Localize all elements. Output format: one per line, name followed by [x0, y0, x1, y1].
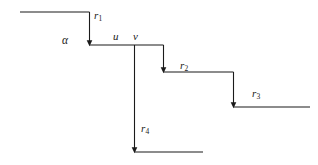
- staircase-diagram: [0, 0, 318, 165]
- vertex-label-u: u: [113, 31, 119, 42]
- diagram-strokes: [20, 12, 310, 152]
- edge-label-r4: r4: [141, 123, 149, 136]
- edge-label-r1-subscript: 1: [99, 14, 103, 23]
- edge-label-r1: r1: [94, 10, 102, 23]
- edge-label-r4-subscript: 4: [146, 127, 150, 136]
- vertex-label-alpha: α: [62, 35, 68, 47]
- edge-label-r3-text: r: [252, 87, 256, 99]
- edge-label-r4-text: r: [141, 122, 145, 134]
- edge-label-r2-subscript: 2: [185, 64, 189, 73]
- edge-label-r2-text: r: [180, 59, 184, 71]
- edge-label-r1-text: r: [94, 9, 98, 21]
- edge-label-r2: r2: [180, 60, 188, 73]
- vertex-label-u-text: u: [113, 30, 119, 42]
- vertex-label-alpha-text: α: [62, 34, 68, 46]
- vertex-label-v: v: [133, 31, 138, 42]
- vertex-label-v-text: v: [133, 30, 138, 42]
- diagram-arrowheads: [87, 40, 237, 153]
- edge-label-r3: r3: [252, 88, 260, 101]
- edge-label-r3-subscript: 3: [257, 92, 261, 101]
- figure-root: r1 α u v r2 r3 r4: [0, 0, 318, 165]
